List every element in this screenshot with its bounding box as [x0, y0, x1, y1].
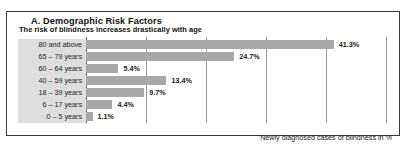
bar-row-label: 65 – 79 years	[18, 51, 82, 63]
bar	[86, 64, 118, 73]
bar-value-label: 24.7%	[239, 51, 259, 63]
bar-row-label: 80 and above	[18, 39, 82, 51]
bar-row-label: 0 – 5 years	[18, 111, 82, 123]
bar-row-label: 6 – 17 years	[18, 99, 82, 111]
bar-value-label: 5.4%	[123, 63, 139, 75]
bar	[86, 76, 166, 85]
demographic-risk-factors-chart: A. Demographic Risk Factors The risk of …	[0, 0, 406, 148]
bar	[86, 40, 334, 49]
bar-row: 18 – 39 years9.7%	[18, 87, 398, 99]
bar-row: 65 – 79 years24.7%	[18, 51, 398, 63]
bar-value-label: 4.4%	[117, 99, 133, 111]
x-axis-caption: Newly diagnosed cases of blindness in %	[260, 133, 392, 142]
bar-row-label: 60 – 64 years	[18, 63, 82, 75]
bar-row: 6 – 17 years4.4%	[18, 99, 398, 111]
bar-row: 0 – 5 years1.1%	[18, 111, 398, 123]
panel-title: A. Demographic Risk Factors	[27, 16, 167, 27]
bar-row: 40 – 59 years13.4%	[18, 75, 398, 87]
bar-value-label: 1.1%	[98, 111, 114, 123]
bar	[86, 88, 144, 97]
bar-row: 80 and above41.3%	[18, 39, 398, 51]
bar-row: 60 – 64 years5.4%	[18, 63, 398, 75]
bar-row-label: 40 – 59 years	[18, 75, 82, 87]
bar	[86, 100, 112, 109]
bar-row-label: 18 – 39 years	[18, 87, 82, 99]
bar	[86, 112, 93, 121]
bar-value-label: 41.3%	[339, 39, 359, 51]
bar-value-label: 13.4%	[171, 75, 191, 87]
bar-value-label: 9.7%	[149, 87, 165, 99]
bar	[86, 52, 234, 61]
